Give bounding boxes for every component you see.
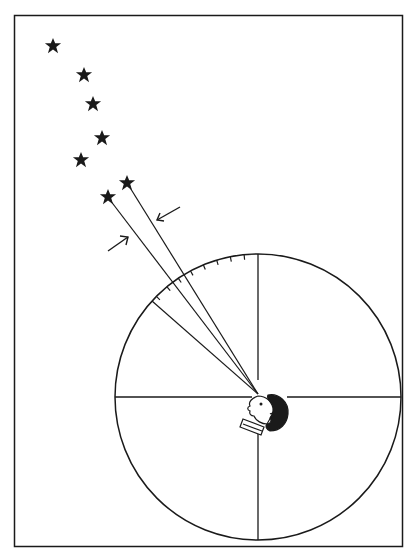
star-icon — [85, 96, 101, 111]
star-icon — [94, 130, 110, 145]
target-star-right-icon — [119, 175, 135, 190]
diagram-canvas: Observer measuring the angle between two… — [0, 0, 417, 560]
arrow-left-icon — [108, 236, 128, 251]
sight-line-left — [110, 200, 258, 394]
star-icon — [73, 152, 89, 167]
observer-head-icon — [240, 395, 288, 435]
reference-radius — [152, 301, 258, 394]
star-icon — [76, 67, 92, 82]
frame-border — [15, 16, 403, 547]
arrow-right-icon — [157, 207, 180, 221]
target-star-left-icon — [100, 189, 116, 204]
star-angle-diagram — [0, 0, 417, 560]
star-icon — [45, 38, 61, 53]
sight-line-right — [129, 186, 258, 394]
